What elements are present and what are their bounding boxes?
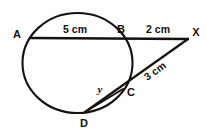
point-label-c: C (127, 86, 135, 98)
chord-line-dc (85, 89, 123, 112)
point-label-x: X (192, 26, 200, 38)
geometry-diagram: A B X C D 5 cm 2 cm 3 cm y (0, 0, 206, 133)
measurement-label-cx: 3 cm (141, 59, 167, 83)
measurement-label-dc-unknown: y (96, 83, 103, 95)
point-label-a: A (13, 28, 21, 40)
point-label-b: B (117, 23, 125, 35)
measurement-label-ab: 5 cm (63, 23, 87, 35)
secant-line-abx (31, 38, 188, 39)
point-label-d: D (80, 117, 88, 129)
secant-line-dcx (85, 39, 188, 112)
measurement-label-bx: 2 cm (146, 23, 170, 35)
geometry-figure-svg: A B X C D 5 cm 2 cm 3 cm y (0, 0, 206, 133)
